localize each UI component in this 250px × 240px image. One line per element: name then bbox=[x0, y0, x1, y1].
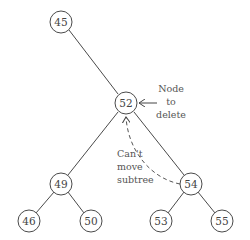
edge-49-46 bbox=[36, 192, 54, 213]
annotation-line: delete bbox=[156, 109, 186, 120]
edge-54-55 bbox=[198, 192, 215, 213]
tree-node: 50 bbox=[80, 210, 102, 232]
annotation-line: subtree bbox=[117, 174, 154, 185]
tree-node: 54 bbox=[180, 173, 202, 195]
tree-node: 46 bbox=[18, 210, 40, 232]
node-to-delete-annotation: Node to delete bbox=[156, 83, 186, 120]
tree-node: 49 bbox=[50, 173, 72, 195]
node-label: 54 bbox=[184, 178, 198, 190]
node-label: 53 bbox=[154, 215, 167, 227]
tree-node: 53 bbox=[150, 210, 172, 232]
node-label: 55 bbox=[215, 215, 228, 227]
tree-node: 55 bbox=[211, 210, 233, 232]
tree-node-to-delete: 52 bbox=[115, 92, 137, 114]
cant-move-subtree-annotation: Can't move subtree bbox=[117, 148, 154, 185]
annotation-line: Node bbox=[158, 83, 184, 94]
edge-49-50 bbox=[68, 192, 84, 213]
node-label: 52 bbox=[119, 97, 132, 109]
annotation-line: to bbox=[166, 96, 176, 107]
edge-45-52 bbox=[69, 30, 118, 94]
annotation-line: move bbox=[117, 161, 143, 172]
annotation-line: Can't bbox=[117, 148, 143, 159]
node-label: 46 bbox=[22, 215, 36, 227]
tree-node: 45 bbox=[50, 11, 72, 33]
node-label: 50 bbox=[84, 215, 97, 227]
node-label: 45 bbox=[54, 16, 67, 28]
node-label: 49 bbox=[54, 178, 67, 190]
edge-52-49 bbox=[68, 112, 118, 175]
tree-diagram: 45 52 49 54 46 50 53 55 Node to delete C… bbox=[0, 0, 250, 240]
edge-54-53 bbox=[168, 192, 184, 213]
